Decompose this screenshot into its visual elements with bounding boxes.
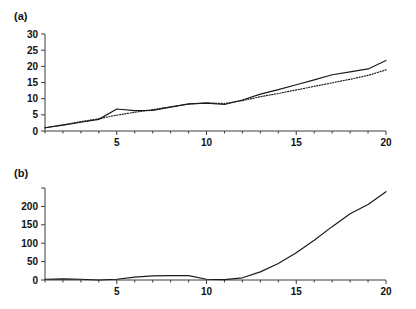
series-line-solid [45, 192, 386, 280]
y-tick-label: 30 [27, 29, 39, 40]
y-tick-label: 5 [32, 109, 38, 120]
panel-a: (a) 0510152025305101520 [0, 0, 416, 155]
series-line-dotted [45, 70, 386, 128]
x-tick-label: 15 [291, 137, 303, 148]
x-tick-label: 5 [114, 286, 120, 297]
y-tick-label: 0 [32, 126, 38, 137]
panel-b-plot: 0501001502005101520 [0, 155, 416, 309]
figure-container: (a) 0510152025305101520 (b) 050100150200… [0, 0, 416, 309]
y-tick-label: 20 [27, 61, 39, 72]
y-tick-label: 10 [27, 93, 39, 104]
y-tick-label: 150 [21, 219, 38, 230]
x-tick-label: 10 [201, 137, 213, 148]
y-tick-label: 100 [21, 238, 38, 249]
x-tick-label: 5 [114, 137, 120, 148]
x-tick-label: 10 [201, 286, 213, 297]
y-tick-label: 200 [21, 201, 38, 212]
x-tick-label: 20 [380, 286, 392, 297]
y-tick-label: 15 [27, 77, 39, 88]
y-tick-label: 25 [27, 45, 39, 56]
x-tick-label: 20 [380, 137, 392, 148]
panel-b: (b) 0501001502005101520 [0, 155, 416, 309]
y-tick-label: 50 [27, 256, 39, 267]
panel-a-plot: 0510152025305101520 [0, 0, 416, 155]
y-tick-label: 0 [32, 275, 38, 286]
series-line-solid [45, 61, 386, 128]
x-tick-label: 15 [291, 286, 303, 297]
